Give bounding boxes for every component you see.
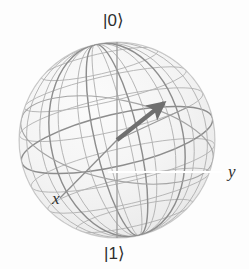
y-axis-label: y xyxy=(228,163,236,180)
ket-zero-label: |0⟩ xyxy=(103,12,124,29)
x-axis-label: x xyxy=(52,190,60,207)
bloch-sphere-figure: |0⟩ |1⟩ x y xyxy=(0,0,249,269)
ket-one-label: |1⟩ xyxy=(104,245,125,262)
bloch-sphere-canvas xyxy=(0,0,249,269)
